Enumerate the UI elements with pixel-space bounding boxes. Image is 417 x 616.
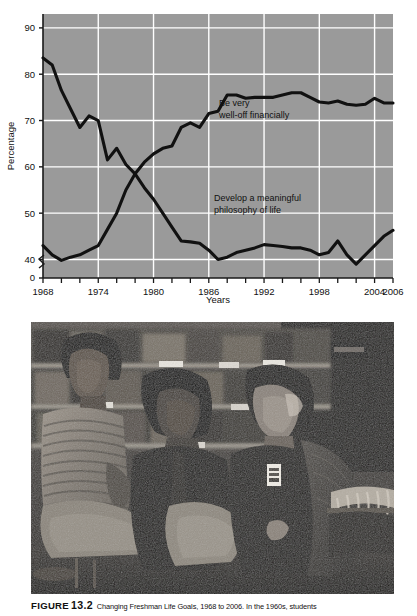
photo-svg — [31, 322, 394, 594]
photo-clothing-rack — [327, 486, 394, 558]
y-tick-label: 70 — [24, 115, 35, 126]
x-tick-label: 1998 — [309, 286, 330, 297]
plot-background — [43, 14, 393, 278]
y-tick-label: 80 — [24, 69, 35, 80]
y-axis-title: Percentage — [5, 122, 16, 171]
figure-number: 13.2 — [71, 601, 93, 611]
annotation-philosophy-line2: philosophy of life — [214, 205, 281, 215]
x-axis-title: Years — [206, 294, 230, 305]
annotation-financially-line2: well-off financially — [218, 110, 290, 120]
annotation-philosophy-line1: Develop a meaningful — [214, 193, 301, 203]
figure-container: 0405060708090 19681974198019861992199820… — [0, 0, 417, 616]
figure-caption: FIGURE 13.2 Changing Freshman Life Goals… — [31, 601, 411, 611]
x-tick-label: 2006 — [382, 286, 403, 297]
figure-label: FIGURE — [31, 601, 69, 611]
y-tick-label: 60 — [24, 161, 35, 172]
y-tick-label: 50 — [24, 208, 35, 219]
figure-caption-text: Changing Freshman Life Goals, 1968 to 20… — [97, 602, 317, 611]
y-axis-tick-labels: 0405060708090 — [24, 22, 35, 283]
figure-photograph — [31, 322, 394, 594]
line-chart: 0405060708090 19681974198019861992199820… — [0, 0, 417, 310]
y-tick-label: 40 — [24, 254, 35, 265]
x-tick-label: 1968 — [32, 286, 53, 297]
y-tick-label: 0 — [30, 272, 35, 283]
chart-svg: 0405060708090 19681974198019861992199820… — [0, 0, 417, 310]
annotation-financially-line1: Be very — [219, 98, 250, 108]
x-tick-label: 1980 — [143, 286, 164, 297]
y-tick-label: 90 — [24, 22, 35, 33]
x-tick-label: 1992 — [253, 286, 274, 297]
x-tick-label: 1974 — [88, 286, 109, 297]
